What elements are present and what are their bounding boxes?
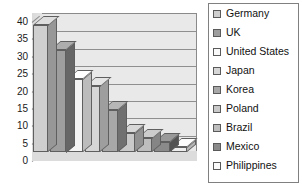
bar-chart: 4035302520151050	[0, 0, 205, 186]
y-axis-tick-label: 10	[6, 121, 28, 131]
legend-swatch-icon	[213, 10, 221, 18]
legend-swatch-icon	[213, 105, 221, 113]
bar-front-face	[33, 25, 49, 152]
legend-item-united-states[interactable]: United States	[209, 42, 298, 61]
legend-item-label: Philippines	[226, 160, 277, 171]
y-axis-tick-label: 5	[6, 139, 28, 149]
legend-item-label: Brazil	[226, 122, 252, 133]
y-axis-tick-label: 0	[6, 156, 28, 166]
legend-item-uk[interactable]: UK	[209, 23, 298, 42]
y-axis-tick-label: 20	[6, 87, 28, 97]
legend-item-philippines[interactable]: Philippines	[209, 156, 298, 175]
bar-side-face	[66, 42, 75, 152]
legend-item-poland[interactable]: Poland	[209, 99, 298, 118]
legend-item-label: Germany	[226, 8, 269, 19]
bar-side-face	[118, 103, 127, 152]
legend-swatch-icon	[213, 48, 221, 56]
legend-item-label: Mexico	[226, 141, 259, 152]
plot-area	[32, 13, 197, 161]
legend-item-label: Poland	[226, 103, 259, 114]
bar-side-face	[83, 71, 92, 152]
y-axis: 4035302520151050	[2, 0, 28, 186]
chart-screenshot: 4035302520151050 GermanyUKUnited StatesJ…	[0, 0, 302, 186]
legend-item-brazil[interactable]: Brazil	[209, 118, 298, 137]
bar-side-face	[100, 78, 109, 152]
legend-item-label: Korea	[226, 84, 254, 95]
legend-item-germany[interactable]: Germany	[209, 4, 298, 23]
y-axis-tick-label: 30	[6, 52, 28, 62]
legend-item-label: Japan	[226, 65, 255, 76]
y-axis-tick-label: 40	[6, 17, 28, 27]
legend-swatch-icon	[213, 143, 221, 151]
legend-item-korea[interactable]: Korea	[209, 80, 298, 99]
legend-swatch-icon	[213, 29, 221, 37]
legend-swatch-icon	[213, 124, 221, 132]
legend-item-mexico[interactable]: Mexico	[209, 137, 298, 156]
y-axis-tick-label: 35	[6, 34, 28, 44]
bar	[33, 25, 49, 152]
legend-item-japan[interactable]: Japan	[209, 61, 298, 80]
legend-swatch-icon	[213, 67, 221, 75]
chart-legend: GermanyUKUnited StatesJapanKoreaPolandBr…	[208, 3, 299, 183]
legend-item-label: United States	[226, 46, 289, 57]
y-axis-tick-label: 15	[6, 104, 28, 114]
y-axis-tick-label: 25	[6, 69, 28, 79]
bar-side-face	[48, 18, 57, 152]
legend-item-label: UK	[226, 27, 241, 38]
legend-swatch-icon	[213, 162, 221, 170]
bar-series	[32, 13, 197, 161]
legend-swatch-icon	[213, 86, 221, 94]
